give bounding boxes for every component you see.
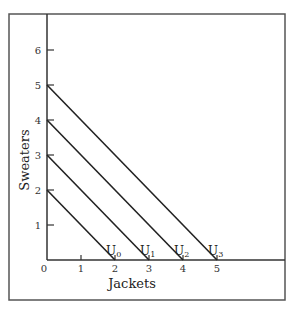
- curve-label-u1: U1: [140, 244, 155, 259]
- curve-label-u3: U3: [208, 244, 223, 259]
- series-group: [47, 85, 217, 260]
- curve-label-u2: U2: [174, 244, 189, 259]
- labels-group: U0U1U2U3: [106, 244, 223, 259]
- x-tick-label: 3: [146, 263, 152, 274]
- y-tick-label: 6: [35, 45, 41, 56]
- indifference-curve-u2: [47, 120, 183, 260]
- y-axis-title: Sweaters: [17, 129, 32, 190]
- y-tick-label: 4: [35, 115, 41, 126]
- y-tick-label: 3: [35, 150, 41, 161]
- y-tick-label: 5: [35, 80, 41, 91]
- x-tick-label: 0: [41, 263, 47, 274]
- y-tick-label: 2: [35, 185, 41, 196]
- y-tick-label: 1: [35, 220, 41, 231]
- x-tick-label: 5: [214, 263, 220, 274]
- indifference-curve-u3: [47, 85, 217, 260]
- x-tick-label: 4: [180, 263, 186, 274]
- indifference-curve-u1: [47, 155, 149, 260]
- x-axis-title: Jackets: [106, 276, 156, 291]
- curve-label-u0: U0: [106, 244, 121, 259]
- x-tick-label: 1: [78, 263, 84, 274]
- indifference-curve-u0: [47, 190, 115, 260]
- x-tick-label: 2: [112, 263, 118, 274]
- indifference-curves-chart: 012345123456 U0U1U2U3 Jackets Sweaters: [0, 0, 295, 309]
